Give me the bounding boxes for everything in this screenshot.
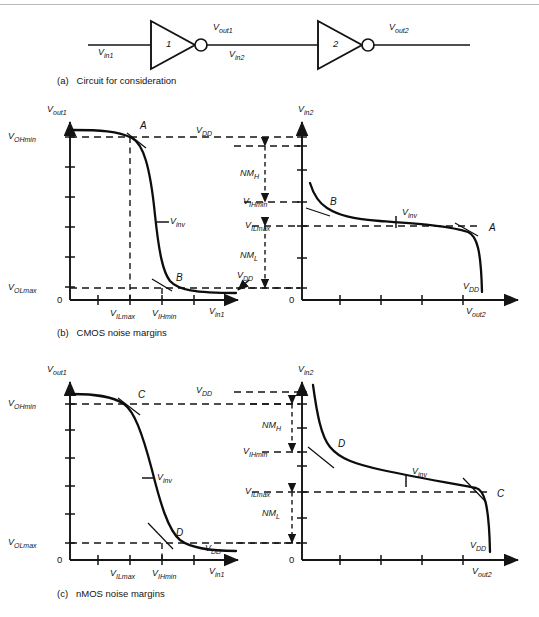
c-left-origin: 0 xyxy=(57,554,62,565)
b-left-vdd-top-label: VDD xyxy=(196,125,212,137)
inverter-2-number: 2 xyxy=(333,38,338,49)
c-right-point-d: D xyxy=(338,438,345,449)
nmos-left-plot-axes xyxy=(65,382,238,565)
c-right-vinv-label: Vinv xyxy=(412,466,427,478)
c-left-vohmin-label: VOHmin xyxy=(8,398,36,410)
nmos-right-curve xyxy=(308,385,490,552)
figure-vector-layer xyxy=(0,0,539,617)
b-left-volmax-label: VOLmax xyxy=(8,282,37,294)
b-right-origin: 0 xyxy=(289,294,294,305)
c-left-volmax-label: VOLmax xyxy=(8,537,37,549)
b-left-origin: 0 xyxy=(57,294,62,305)
c-left-point-d: D xyxy=(176,527,183,538)
b-right-point-a: A xyxy=(489,222,496,233)
b-right-vinv-label: Vinv xyxy=(402,207,417,219)
b-right-point-b: B xyxy=(330,196,337,207)
b-right-vdd-label: VDD xyxy=(463,281,479,293)
circuit-vout1-label: Vout1 xyxy=(213,22,233,34)
b-left-yaxis-label: Vout1 xyxy=(47,104,67,116)
b-left-vohmin-label: VOHmin xyxy=(8,131,36,143)
b-right-yaxis-label: Vin2 xyxy=(298,104,313,116)
circuit-vout2-label: Vout2 xyxy=(389,22,409,34)
c-left-yaxis-label: Vout1 xyxy=(47,364,67,376)
b-left-point-a: A xyxy=(140,120,147,131)
c-left-xaxis-label: Vin1 xyxy=(209,566,224,578)
c-right-xaxis-label: Vout2 xyxy=(472,566,492,578)
b-left-vilmax-label: VILmax xyxy=(110,308,135,320)
caption-b: (b) CMOS noise margins xyxy=(57,327,167,338)
c-left-vdd-arrow-label: VDD xyxy=(205,543,221,555)
nmos-noise-margin-arrows xyxy=(234,392,300,543)
cmos-left-plot-axes xyxy=(65,122,238,305)
c-right-vihmin-label: VIHmin xyxy=(243,446,267,458)
c-right-vdd-label: VDD xyxy=(470,540,486,552)
circuit-schematic xyxy=(88,21,470,69)
b-right-xaxis-label: Vout2 xyxy=(466,306,486,318)
c-nml-label: NML xyxy=(262,508,280,520)
c-left-vihmin-label: VIHmin xyxy=(152,568,176,580)
cmos-left-curve xyxy=(72,130,236,293)
c-right-yaxis-label: Vin2 xyxy=(298,364,313,376)
b-nml-label: NML xyxy=(240,250,258,262)
b-nmh-label: NMH xyxy=(240,168,259,180)
c-left-vdd-top-label: VDD xyxy=(196,385,212,397)
nmos-right-plot-axes xyxy=(297,382,518,565)
b-left-point-b: B xyxy=(176,272,183,283)
circuit-input1-label: Vin1 xyxy=(98,47,113,59)
circuit-vin2-label: Vin2 xyxy=(229,49,244,61)
b-right-vilmax-label: VILmax xyxy=(245,220,270,232)
c-left-vinv-label: Vinv xyxy=(157,472,172,484)
nmos-left-curve xyxy=(72,394,236,551)
c-right-origin: 0 xyxy=(289,554,294,565)
caption-a: (a) Circuit for consideration xyxy=(57,75,176,86)
inverter-1-number: 1 xyxy=(166,38,171,49)
c-left-vilmax-label: VILmax xyxy=(110,568,135,580)
c-right-vilmax-label: VILmax xyxy=(245,486,270,498)
b-left-vinv-label: Vinv xyxy=(170,216,185,228)
b-left-vdd-arrow-label: VDD xyxy=(237,270,253,282)
c-left-point-c: C xyxy=(138,389,145,400)
c-right-point-c: C xyxy=(497,488,504,499)
b-left-vihmin-label: VIHmin xyxy=(152,308,176,320)
b-left-xaxis-label: Vin1 xyxy=(209,306,224,318)
b-right-vihmin-label: VIHmin xyxy=(243,196,267,208)
caption-c: (c) nMOS noise margins xyxy=(57,588,165,599)
c-nmh-label: NMH xyxy=(262,420,281,432)
figure-noise-margins: Vin1 1 Vout1 Vin2 2 Vout2 (a) Circuit fo… xyxy=(0,0,539,617)
